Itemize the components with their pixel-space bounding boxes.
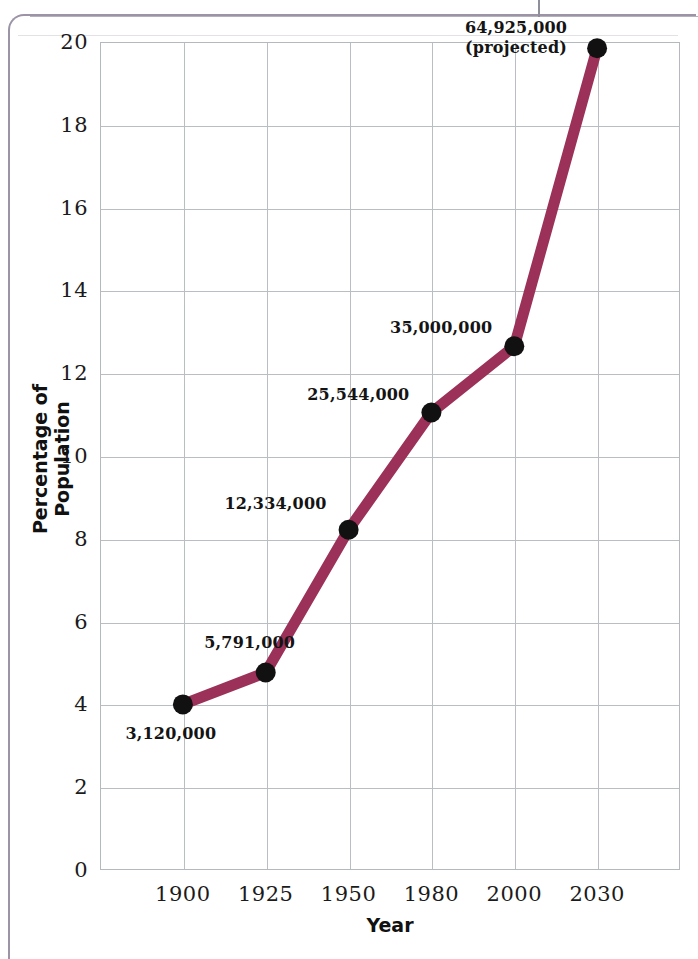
data-point-label: 35,000,000: [390, 318, 492, 338]
y-axis-tick-label: 6: [28, 610, 88, 634]
x-axis-tick-label: 1980: [386, 882, 476, 906]
data-point-label: 12,334,000: [224, 494, 326, 514]
gridline-horizontal: [101, 374, 679, 375]
gridline-vertical: [350, 43, 351, 869]
x-axis-title: Year: [100, 914, 680, 936]
y-axis-tick-label: 14: [28, 278, 88, 302]
gridline-horizontal: [101, 291, 679, 292]
y-axis-tick-label: 0: [28, 858, 88, 882]
gridline-horizontal: [101, 126, 679, 127]
gridline-horizontal: [101, 457, 679, 458]
y-axis-tick-label: 2: [28, 775, 88, 799]
gridline-vertical: [515, 43, 516, 869]
gridline-vertical: [432, 43, 433, 869]
gridline-vertical: [267, 43, 268, 869]
gridline-horizontal: [101, 705, 679, 706]
gridline-horizontal: [101, 209, 679, 210]
data-point-label: 25,544,000: [307, 385, 409, 405]
y-axis-tick-label: 18: [28, 113, 88, 137]
y-axis-title: Percentage of Population: [29, 339, 73, 579]
x-axis-tick-label: 2030: [552, 882, 642, 906]
x-axis-tick-label: 1950: [304, 882, 394, 906]
data-point-label: 5,791,000: [204, 633, 295, 653]
y-axis-tick-label: 16: [28, 196, 88, 220]
gridline-horizontal: [101, 540, 679, 541]
data-point-label: 3,120,000: [125, 724, 216, 744]
x-axis-tick-label: 1925: [221, 882, 311, 906]
gridline-horizontal: [101, 788, 679, 789]
data-point-label: 64,925,000 (projected): [465, 18, 567, 58]
x-axis-tick-label: 2000: [469, 882, 559, 906]
x-axis-tick-labels: 190019251950198020002030: [100, 882, 680, 912]
gridline-horizontal: [101, 623, 679, 624]
gridline-vertical: [184, 43, 185, 869]
plot-area: [100, 42, 680, 870]
gridline-vertical: [598, 43, 599, 869]
x-axis-tick-label: 1900: [138, 882, 228, 906]
y-axis-tick-label: 20: [28, 30, 88, 54]
y-axis-tick-label: 4: [28, 692, 88, 716]
